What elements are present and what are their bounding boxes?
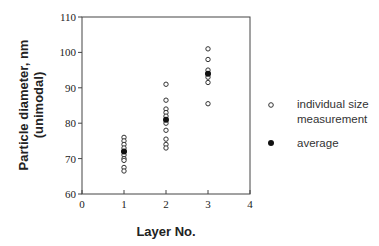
measurement-point — [206, 47, 210, 51]
y-tick-label: 60 — [65, 188, 77, 200]
legend-open-label-2: measurement — [297, 113, 368, 125]
legend-filled-label: average — [297, 137, 339, 149]
x-axis-title: Layer No. — [136, 224, 195, 239]
x-tick-label: 1 — [121, 198, 127, 210]
x-tick-label: 2 — [163, 198, 169, 210]
measurement-point — [164, 146, 168, 150]
y-tick-label: 80 — [65, 117, 77, 129]
average-point — [121, 149, 127, 155]
legend: individual size measurement average — [268, 98, 369, 149]
measurement-point — [164, 98, 168, 102]
data-points — [121, 47, 211, 174]
x-tick-label: 0 — [79, 198, 85, 210]
measurement-point — [206, 57, 210, 61]
svg-text:(unimodal): (unimodal) — [31, 72, 46, 138]
y-tick-label: 90 — [65, 82, 77, 94]
filled-circle-icon — [268, 140, 274, 146]
svg-text:Particle diameter, nm: Particle diameter, nm — [16, 40, 31, 171]
y-tick-label: 110 — [60, 11, 77, 23]
x-tick-label: 3 — [205, 198, 211, 210]
y-axis: 60708090100110 — [60, 11, 83, 200]
y-tick-label: 70 — [65, 153, 77, 165]
x-axis: 01234 — [79, 190, 253, 210]
measurement-point — [206, 80, 210, 84]
legend-open-label-1: individual size — [297, 98, 369, 110]
measurement-point — [164, 128, 168, 132]
measurement-point — [164, 82, 168, 86]
measurement-point — [122, 169, 126, 173]
plot-frame — [82, 17, 250, 194]
measurement-point — [122, 158, 126, 162]
x-tick-label: 4 — [247, 198, 253, 210]
open-circle-icon — [269, 103, 274, 108]
average-point — [163, 117, 169, 123]
y-axis-title: Particle diameter, nm (unimodal) — [16, 40, 46, 171]
measurement-point — [164, 137, 168, 141]
average-point — [205, 71, 211, 77]
measurement-point — [206, 102, 210, 106]
chart: 60708090100110 01234 Layer No. Particle … — [0, 0, 379, 246]
y-tick-label: 100 — [60, 46, 77, 58]
